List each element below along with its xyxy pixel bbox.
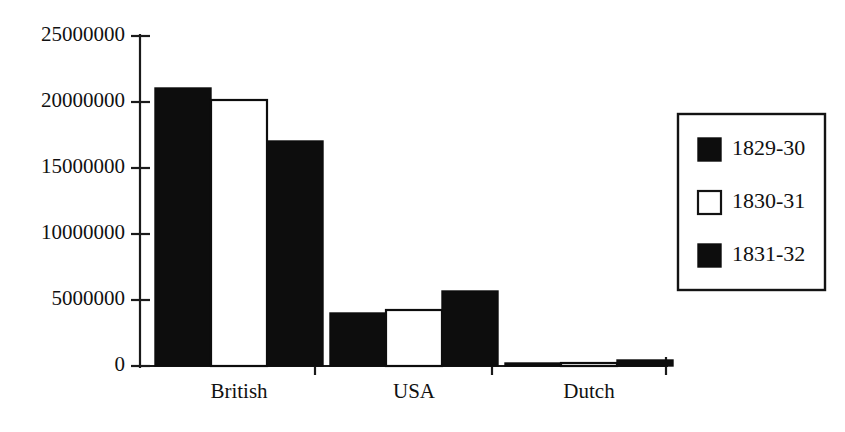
bar-dutch-1829-30 (505, 363, 561, 366)
x-label-british: British (210, 379, 268, 403)
bar-dutch-1830-31 (561, 363, 617, 366)
x-label-usa: USA (393, 379, 436, 403)
chart-canvas: 25000000 20000000 15000000 10000000 5000… (0, 0, 845, 432)
y-tick-label-10000000: 10000000 (41, 220, 125, 244)
legend-entry-1829-30[interactable]: 1829-30 (698, 135, 805, 161)
bar-usa-1830-31 (386, 310, 442, 366)
legend-label-1831-32: 1831-32 (732, 241, 805, 266)
legend-label-1829-30: 1829-30 (732, 135, 805, 160)
bar-group-usa (330, 291, 498, 366)
bar-usa-1831-32 (442, 291, 498, 366)
bar-dutch-1831-32 (617, 360, 673, 366)
bar-british-1831-32 (267, 141, 323, 366)
bar-usa-1829-30 (330, 313, 386, 366)
legend-entry-1831-32[interactable]: 1831-32 (698, 241, 805, 267)
y-tick-label-15000000: 15000000 (41, 154, 125, 178)
legend-swatch-1830-31 (698, 191, 721, 214)
bar-british-1829-30 (155, 88, 211, 366)
y-tick-label-0: 0 (115, 352, 126, 376)
y-tick-label-20000000: 20000000 (41, 88, 125, 112)
y-tick-label-5000000: 5000000 (52, 286, 126, 310)
legend-entry-1830-31[interactable]: 1830-31 (698, 188, 805, 214)
bar-british-1830-31 (211, 100, 267, 366)
legend-swatch-1829-30 (698, 138, 721, 161)
y-tick-label-25000000: 25000000 (41, 22, 125, 46)
y-axis: 25000000 20000000 15000000 10000000 5000… (41, 22, 150, 376)
bar-group-british (155, 88, 323, 366)
x-axis-category-labels: British USA Dutch (210, 379, 615, 403)
legend: 1829-30 1830-31 1831-32 (678, 114, 825, 290)
bar-group-dutch (505, 360, 673, 366)
x-label-dutch: Dutch (563, 379, 615, 403)
bar-chart-figure: 25000000 20000000 15000000 10000000 5000… (0, 0, 845, 432)
legend-swatch-1831-32 (698, 244, 721, 267)
y-axis-tick-labels: 25000000 20000000 15000000 10000000 5000… (41, 22, 125, 376)
legend-label-1830-31: 1830-31 (732, 188, 805, 213)
